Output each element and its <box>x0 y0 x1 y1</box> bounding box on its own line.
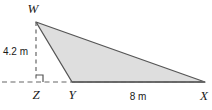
measurement-label-base: 8 m <box>130 91 147 102</box>
vertex-label-y: Y <box>68 87 77 102</box>
measurement-label-height: 4.2 m <box>3 46 28 57</box>
right-angle-marker-icon <box>36 75 43 82</box>
geometry-figure: W Y X Z 4.2 m 8 m <box>0 0 212 110</box>
vertex-label-z: Z <box>32 87 40 102</box>
triangle-wyx-shape <box>36 22 205 82</box>
vertex-label-w: W <box>28 1 40 16</box>
vertex-label-x: X <box>199 88 209 103</box>
geometry-canvas: W Y X Z 4.2 m 8 m <box>0 0 212 110</box>
